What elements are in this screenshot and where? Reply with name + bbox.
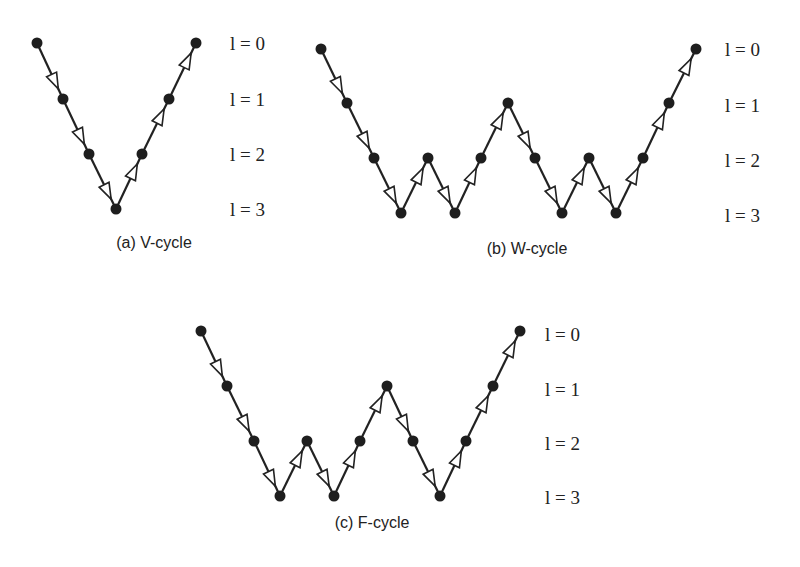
prolongation-arrow-icon bbox=[626, 168, 638, 185]
grid-node-level-0 bbox=[691, 44, 702, 55]
panel-f-cycle: l = 0l = 1l = 2l = 3(c) F-cycle bbox=[196, 324, 581, 531]
prolongation-arrow-icon bbox=[152, 109, 164, 126]
grid-node-level-1 bbox=[382, 381, 393, 392]
restriction-arrow-icon bbox=[357, 131, 369, 148]
panel-v-cycle: l = 0l = 1l = 2l = 3(a) V-cycle bbox=[32, 33, 266, 251]
grid-node-level-2 bbox=[249, 436, 260, 447]
grid-node-level-3 bbox=[557, 208, 568, 219]
grid-node-level-3 bbox=[450, 208, 461, 219]
prolongation-arrow-icon bbox=[679, 59, 691, 76]
panel-caption: (b) W-cycle bbox=[487, 240, 568, 257]
grid-node-level-2 bbox=[638, 153, 649, 164]
level-label: l = 0 bbox=[725, 39, 760, 60]
grid-node-level-1 bbox=[58, 94, 69, 105]
grid-node-level-0 bbox=[316, 44, 327, 55]
prolongation-arrow-icon bbox=[653, 113, 665, 130]
prolongation-arrow-icon bbox=[411, 168, 423, 185]
restriction-arrow-icon bbox=[47, 72, 59, 89]
grid-node-level-2 bbox=[408, 436, 419, 447]
restriction-arrow-icon bbox=[423, 469, 435, 486]
grid-node-level-1 bbox=[488, 381, 499, 392]
restriction-arrow-icon bbox=[518, 131, 530, 148]
prolongation-arrow-icon bbox=[344, 451, 356, 468]
prolongation-arrow-icon bbox=[450, 451, 462, 468]
grid-node-level-1 bbox=[342, 98, 353, 109]
prolongation-arrow-icon bbox=[465, 168, 477, 185]
prolongation-arrow-icon bbox=[572, 168, 584, 185]
level-label: l = 1 bbox=[545, 379, 580, 400]
restriction-arrow-icon bbox=[211, 359, 223, 376]
prolongation-arrow-icon bbox=[503, 341, 515, 358]
level-label: l = 0 bbox=[230, 33, 265, 54]
grid-node-level-3 bbox=[396, 208, 407, 219]
level-label: l = 2 bbox=[230, 144, 265, 165]
grid-node-level-1 bbox=[664, 98, 675, 109]
grid-node-level-0 bbox=[32, 38, 43, 49]
restriction-arrow-icon bbox=[317, 469, 329, 486]
prolongation-arrow-icon bbox=[491, 113, 503, 130]
grid-node-level-2 bbox=[530, 153, 541, 164]
prolongation-arrow-icon bbox=[126, 164, 138, 181]
grid-node-level-1 bbox=[222, 381, 233, 392]
restriction-arrow-icon bbox=[330, 76, 342, 93]
prolongation-arrow-icon bbox=[370, 396, 382, 413]
grid-node-level-3 bbox=[329, 491, 340, 502]
grid-node-level-3 bbox=[611, 208, 622, 219]
prolongation-arrow-icon bbox=[179, 53, 191, 70]
panel-caption: (a) V-cycle bbox=[116, 234, 192, 251]
level-label: l = 3 bbox=[230, 199, 265, 220]
multigrid-cycles-diagram: l = 0l = 1l = 2l = 3(a) V-cycle l = 0l =… bbox=[0, 0, 800, 567]
grid-node-level-2 bbox=[355, 436, 366, 447]
grid-node-level-2 bbox=[584, 153, 595, 164]
restriction-arrow-icon bbox=[99, 182, 111, 199]
restriction-arrow-icon bbox=[599, 186, 611, 203]
level-label: l = 0 bbox=[545, 324, 580, 345]
grid-node-level-2 bbox=[423, 153, 434, 164]
restriction-arrow-icon bbox=[438, 186, 450, 203]
grid-node-level-1 bbox=[164, 94, 175, 105]
prolongation-arrow-icon bbox=[290, 451, 302, 468]
level-label: l = 1 bbox=[230, 89, 265, 110]
panel-caption: (c) F-cycle bbox=[335, 514, 410, 531]
grid-node-level-0 bbox=[196, 326, 207, 337]
restriction-arrow-icon bbox=[73, 127, 85, 144]
restriction-arrow-icon bbox=[384, 186, 396, 203]
restriction-arrow-icon bbox=[264, 469, 276, 486]
level-label: l = 2 bbox=[545, 433, 580, 454]
level-label: l = 1 bbox=[725, 95, 760, 116]
grid-node-level-3 bbox=[435, 491, 446, 502]
grid-node-level-2 bbox=[461, 436, 472, 447]
grid-node-level-2 bbox=[84, 149, 95, 160]
level-label: l = 2 bbox=[725, 150, 760, 171]
grid-node-level-0 bbox=[515, 326, 526, 337]
grid-node-level-2 bbox=[302, 436, 313, 447]
grid-node-level-2 bbox=[369, 153, 380, 164]
restriction-arrow-icon bbox=[237, 414, 249, 431]
prolongation-arrow-icon bbox=[476, 396, 488, 413]
grid-node-level-3 bbox=[111, 204, 122, 215]
grid-node-level-1 bbox=[503, 98, 514, 109]
level-label: l = 3 bbox=[545, 487, 580, 508]
grid-node-level-2 bbox=[137, 149, 148, 160]
grid-node-level-2 bbox=[476, 153, 487, 164]
grid-node-level-0 bbox=[191, 38, 202, 49]
restriction-arrow-icon bbox=[545, 186, 557, 203]
restriction-arrow-icon bbox=[397, 414, 409, 431]
panel-w-cycle: l = 0l = 1l = 2l = 3(b) W-cycle bbox=[316, 39, 761, 257]
grid-node-level-3 bbox=[275, 491, 286, 502]
level-label: l = 3 bbox=[725, 205, 760, 226]
